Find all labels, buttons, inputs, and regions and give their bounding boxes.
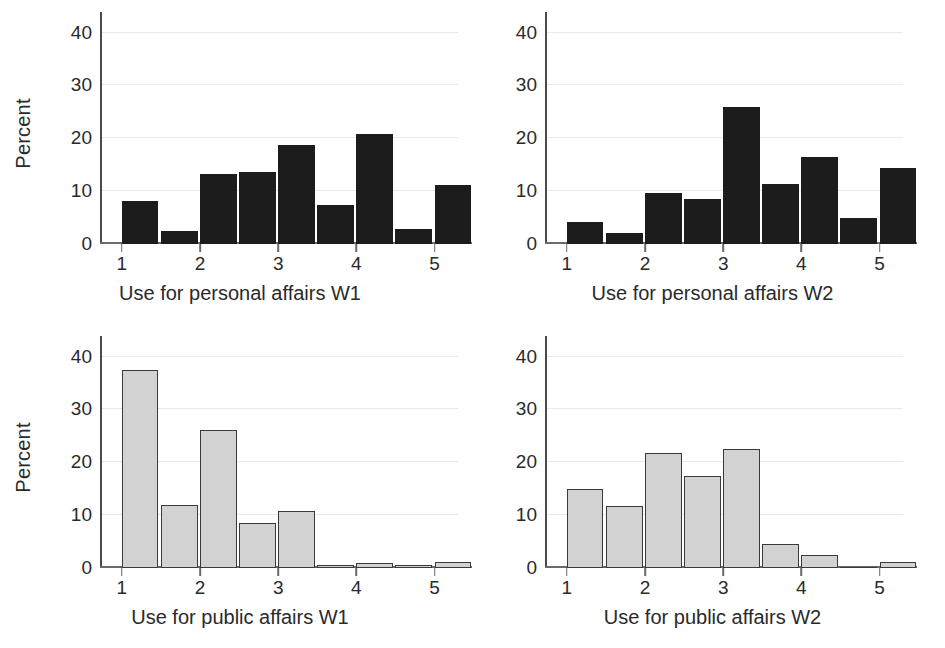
y-tick-label: 20 <box>71 451 92 473</box>
bar <box>840 218 877 244</box>
plot-area: 01020304012345 <box>505 346 903 568</box>
y-tick-label: 0 <box>81 557 92 579</box>
y-axis-tick-labels: 010203040 <box>60 346 100 568</box>
x-tick-mark <box>879 568 881 576</box>
bar <box>200 430 237 568</box>
y-tick-label: 30 <box>516 398 537 420</box>
x-tick-mark <box>121 568 123 576</box>
chart-panel-top-left: Percent01020304012345Use for personal af… <box>0 0 480 324</box>
x-tick-mark <box>722 244 724 252</box>
plot-canvas: 12345 <box>545 346 903 568</box>
y-axis-tick-labels: 010203040 <box>60 22 100 244</box>
bar <box>122 370 159 568</box>
chart-panel-top-right: 01020304012345Use for personal affairs W… <box>480 0 945 324</box>
bar <box>435 185 472 244</box>
bar <box>278 511 315 568</box>
x-tick-label: 3 <box>718 577 729 599</box>
y-axis-title: Percent <box>6 346 40 568</box>
bar <box>606 233 643 244</box>
bar <box>762 184 799 244</box>
y-axis-tick-labels: 010203040 <box>505 346 545 568</box>
y-tick-label: 10 <box>516 504 537 526</box>
x-tick-label: 4 <box>351 253 362 275</box>
x-axis-tick-labels: 12345 <box>545 568 903 602</box>
x-tick-label: 2 <box>640 577 651 599</box>
y-tick-label: 20 <box>516 451 537 473</box>
bar <box>723 107 760 244</box>
x-tick-label: 2 <box>195 577 206 599</box>
y-tick-label: 40 <box>516 346 537 368</box>
x-tick-mark <box>121 244 123 252</box>
bar <box>684 476 721 569</box>
bar-series <box>100 346 458 568</box>
x-axis-title: Use for public affairs W2 <box>480 606 945 629</box>
x-tick-mark <box>277 568 279 576</box>
bar <box>278 145 315 244</box>
bar <box>645 453 682 568</box>
bar <box>317 205 354 244</box>
bar <box>161 505 198 568</box>
y-axis-title-text: Percent <box>12 422 35 492</box>
bar <box>567 489 604 568</box>
y-axis-title: Percent <box>6 22 40 244</box>
x-tick-mark <box>199 568 201 576</box>
x-tick-mark <box>356 244 358 252</box>
bar <box>723 449 760 568</box>
x-tick-label: 1 <box>117 577 128 599</box>
bar <box>239 523 276 568</box>
bar-series <box>545 346 903 568</box>
bar <box>239 172 276 244</box>
bar <box>567 222 604 244</box>
x-tick-mark <box>566 568 568 576</box>
y-axis-title-text: Percent <box>12 98 35 168</box>
y-tick-label: 30 <box>516 74 537 96</box>
x-tick-label: 2 <box>640 253 651 275</box>
y-tick-label: 30 <box>71 74 92 96</box>
x-tick-label: 3 <box>273 253 284 275</box>
x-tick-mark <box>801 244 803 252</box>
x-axis-tick-labels: 12345 <box>100 568 458 602</box>
x-tick-label: 3 <box>273 577 284 599</box>
y-tick-label: 40 <box>516 22 537 44</box>
bar <box>395 229 432 244</box>
x-tick-label: 5 <box>429 253 440 275</box>
x-tick-label: 3 <box>718 253 729 275</box>
bar <box>356 134 393 244</box>
x-tick-label: 1 <box>562 577 573 599</box>
bar <box>880 168 917 244</box>
y-tick-label: 30 <box>71 398 92 420</box>
x-tick-label: 4 <box>351 577 362 599</box>
figure-grid: Percent01020304012345Use for personal af… <box>0 0 945 648</box>
y-tick-label: 10 <box>516 180 537 202</box>
plot-area: 01020304012345 <box>60 346 458 568</box>
x-tick-label: 1 <box>562 253 573 275</box>
bar <box>684 199 721 244</box>
bar-series <box>545 22 903 244</box>
y-tick-label: 0 <box>526 557 537 579</box>
x-tick-mark <box>434 244 436 252</box>
bar <box>762 544 799 568</box>
chart-panel-bottom-right: 01020304012345Use for public affairs W2 <box>480 324 945 648</box>
bar <box>645 193 682 244</box>
plot-canvas: 12345 <box>100 346 458 568</box>
x-axis-tick-labels: 12345 <box>100 244 458 278</box>
bar <box>161 231 198 244</box>
x-tick-mark <box>879 244 881 252</box>
y-tick-label: 20 <box>71 127 92 149</box>
plot-canvas: 12345 <box>545 22 903 244</box>
y-tick-label: 0 <box>526 233 537 255</box>
x-tick-mark <box>644 568 646 576</box>
x-tick-mark <box>801 568 803 576</box>
x-tick-label: 5 <box>874 253 885 275</box>
x-tick-mark <box>199 244 201 252</box>
x-tick-mark <box>566 244 568 252</box>
plot-canvas: 12345 <box>100 22 458 244</box>
bar <box>200 174 237 244</box>
bar <box>801 555 838 568</box>
x-tick-mark <box>722 568 724 576</box>
x-tick-mark <box>356 568 358 576</box>
x-tick-mark <box>434 568 436 576</box>
chart-panel-bottom-left: Percent01020304012345Use for public affa… <box>0 324 480 648</box>
y-tick-label: 0 <box>81 233 92 255</box>
x-tick-label: 5 <box>429 577 440 599</box>
